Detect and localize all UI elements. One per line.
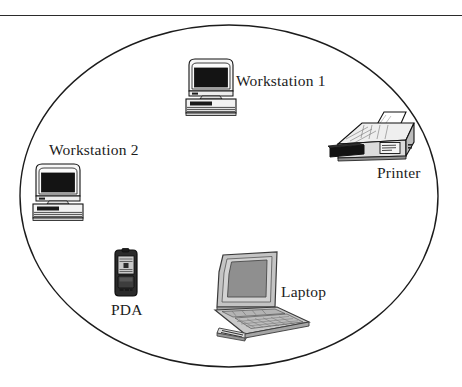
node-pda[interactable] — [110, 248, 144, 300]
desktop-computer-icon — [29, 160, 87, 224]
label-workstation-1: Workstation 1 — [236, 72, 326, 90]
label-pda: PDA — [111, 301, 143, 319]
label-printer: Printer — [377, 164, 421, 182]
node-workstation-2[interactable] — [29, 160, 87, 224]
pda-handheld-icon — [110, 248, 144, 300]
node-workstation-1[interactable] — [182, 55, 240, 119]
label-laptop: Laptop — [281, 283, 326, 301]
network-topology-figure: Workstation 1 — [0, 0, 462, 387]
desktop-computer-icon — [182, 55, 240, 119]
label-workstation-2: Workstation 2 — [49, 141, 139, 159]
laser-printer-icon — [328, 108, 424, 166]
node-printer[interactable] — [328, 108, 424, 166]
